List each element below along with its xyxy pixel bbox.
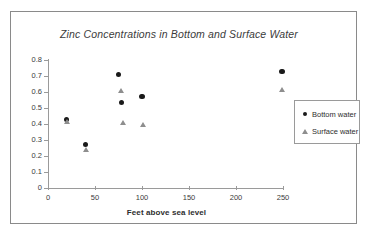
open-triangle-marker-icon (120, 120, 126, 125)
open-triangle-marker-icon (279, 87, 285, 92)
x-axis-tick-label: 100 (127, 193, 157, 202)
open-triangle-marker-icon (118, 88, 124, 93)
x-axis-tick-label: 0 (33, 193, 63, 202)
y-axis-tick-label: 0 (20, 184, 42, 192)
x-axis-title: Feet above sea level (49, 208, 284, 217)
chart-frame: Zinc Concentrations in Bottom and Surfac… (10, 11, 357, 224)
y-axis-tick-label: 0.8 (20, 56, 42, 64)
y-axis-tick-label: 0.7 (20, 72, 42, 80)
filled-circle-marker-icon (139, 94, 144, 99)
open-triangle-marker-icon (300, 126, 310, 136)
x-axis-line (48, 188, 284, 189)
open-triangle-marker-icon (140, 122, 146, 127)
x-axis-tick-label: 200 (221, 193, 251, 202)
x-axis-tick-label: 150 (174, 193, 204, 202)
y-axis-tick-label: 0.2 (20, 152, 42, 160)
legend-item-bottom-water[interactable]: Bottom water (300, 109, 356, 119)
y-axis-tick-label: 0.6 (20, 88, 42, 96)
y-axis-tick-label: 0.4 (20, 120, 42, 128)
x-axis-tick-label: 50 (80, 193, 110, 202)
chart-legend: Bottom water Surface water (294, 100, 360, 144)
legend-label: Surface water (312, 127, 358, 136)
open-triangle-marker-icon (64, 119, 70, 124)
x-axis-tick (283, 186, 284, 190)
x-axis-tick-label: 250 (268, 193, 298, 202)
chart-title: Zinc Concentrations in Bottom and Surfac… (49, 28, 309, 40)
filled-circle-marker-icon (119, 100, 124, 105)
legend-item-surface-water[interactable]: Surface water (300, 126, 358, 136)
y-axis-tick-label: 0.3 (20, 136, 42, 144)
y-axis-tick-label: 0.5 (20, 104, 42, 112)
filled-circle-marker-icon (279, 69, 284, 74)
filled-circle-marker-icon (116, 72, 121, 77)
filled-circle-marker-icon (300, 109, 310, 119)
plot-area (48, 60, 283, 188)
open-triangle-marker-icon (83, 147, 89, 152)
y-axis-tick-label: 0.1 (20, 168, 42, 176)
legend-label: Bottom water (312, 110, 356, 119)
